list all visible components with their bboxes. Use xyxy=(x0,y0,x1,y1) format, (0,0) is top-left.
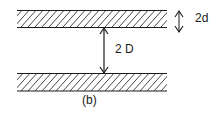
hatch-line xyxy=(147,11,161,27)
hatch-line xyxy=(161,11,175,27)
hatch-line xyxy=(63,74,78,91)
hatch-line xyxy=(168,74,183,91)
thickness-arrow xyxy=(175,11,183,32)
hatch-line xyxy=(0,11,14,27)
hatch-line xyxy=(49,11,63,27)
hatch-line xyxy=(84,11,98,27)
hatch-line xyxy=(70,74,85,91)
hatch-line xyxy=(105,74,120,91)
hatch-line xyxy=(28,74,43,91)
hatch-line xyxy=(28,11,42,27)
hatch-line xyxy=(175,74,190,91)
hatch-line xyxy=(7,74,22,91)
hatch-line xyxy=(91,11,105,27)
hatch-line xyxy=(154,11,168,27)
bottom-plate xyxy=(0,74,211,92)
hatch-line xyxy=(182,74,197,91)
hatch-line xyxy=(70,11,84,27)
hatch-line xyxy=(14,74,29,91)
hatch-line xyxy=(42,74,57,91)
hatch-line xyxy=(196,74,211,91)
hatch-line xyxy=(119,74,134,91)
parallel-plates-diagram: 2 D 2d (b) xyxy=(0,0,218,116)
hatch-line xyxy=(7,11,21,27)
hatch-line xyxy=(140,11,154,27)
hatch-line xyxy=(112,11,126,27)
hatch-line xyxy=(105,11,119,27)
hatch-line xyxy=(119,11,133,27)
hatch-line xyxy=(126,74,141,91)
hatch-line xyxy=(35,11,49,27)
bottom-plate-hatching xyxy=(0,74,211,91)
hatch-line xyxy=(21,11,35,27)
separation-arrow xyxy=(100,28,108,73)
hatch-line xyxy=(133,74,148,91)
hatch-line xyxy=(42,11,56,27)
hatch-line xyxy=(98,11,112,27)
hatch-line xyxy=(140,74,155,91)
hatch-line xyxy=(14,11,28,27)
hatch-line xyxy=(35,74,50,91)
thickness-label: 2d xyxy=(195,11,208,25)
hatch-line xyxy=(77,74,92,91)
hatch-line xyxy=(56,11,70,27)
hatch-line xyxy=(84,74,99,91)
hatch-line xyxy=(21,74,36,91)
hatch-line xyxy=(112,74,127,91)
hatch-line xyxy=(147,74,162,91)
hatch-line xyxy=(49,74,64,91)
hatch-line xyxy=(154,74,169,91)
hatch-line xyxy=(77,11,91,27)
hatch-line xyxy=(161,74,176,91)
hatch-line xyxy=(91,74,106,91)
hatch-line xyxy=(63,11,77,27)
hatch-line xyxy=(98,74,113,91)
hatch-line xyxy=(133,11,147,27)
hatch-line xyxy=(56,74,71,91)
hatch-line xyxy=(0,74,15,91)
separation-label: 2 D xyxy=(115,42,134,56)
hatch-line xyxy=(126,11,140,27)
figure-caption: (b) xyxy=(82,93,97,107)
hatch-line xyxy=(189,74,204,91)
